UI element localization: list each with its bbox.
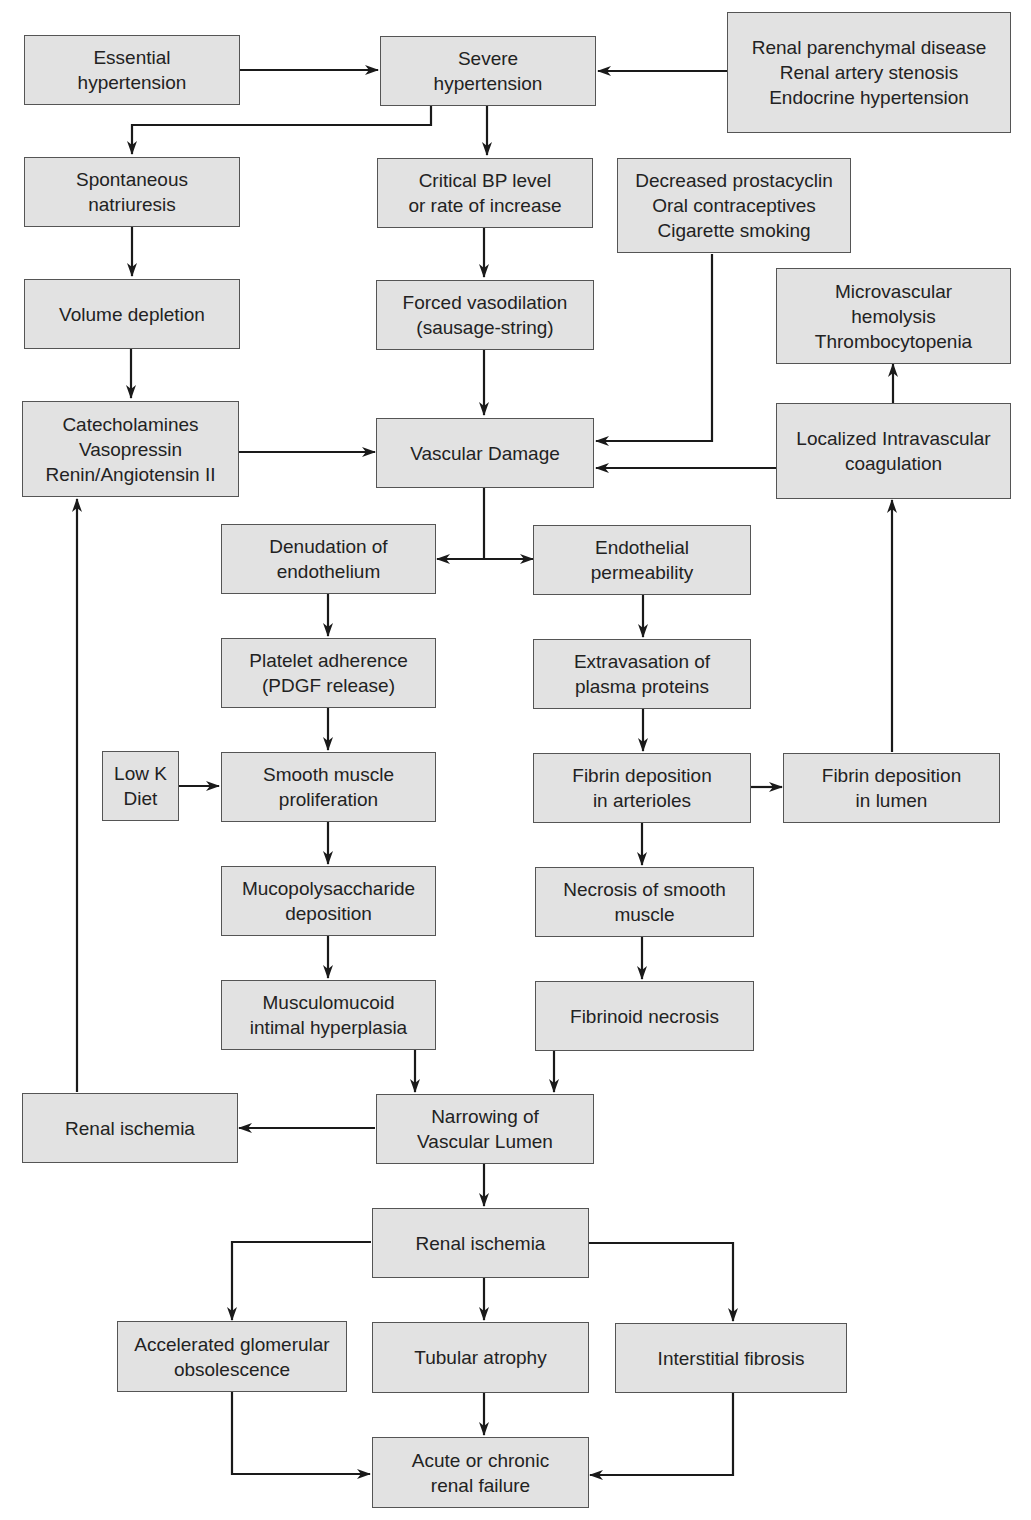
node-text-line: Severe — [458, 46, 518, 71]
node-text-line: Decreased prostacyclin — [635, 168, 832, 193]
node-denudation: Denudation of endothelium — [221, 524, 436, 594]
node-text-line: Necrosis of smooth — [563, 877, 726, 902]
node-text-line: proliferation — [279, 787, 378, 812]
node-text-line: Endothelial — [595, 535, 689, 560]
node-secondary-causes: Renal parenchymal disease Renal artery s… — [727, 12, 1011, 133]
node-text-line: permeability — [591, 560, 693, 585]
arrow-interstitial-to-failure — [590, 1393, 733, 1475]
node-text-line: Critical BP level — [419, 168, 552, 193]
node-vascular-damage: Vascular Damage — [376, 418, 594, 488]
node-text-line: hypertension — [78, 70, 187, 95]
node-text-line: Cigarette smoking — [657, 218, 810, 243]
node-text-line: Oral contraceptives — [652, 193, 816, 218]
node-text-line: Mucopolysaccharide — [242, 876, 415, 901]
node-text-line: Interstitial fibrosis — [658, 1346, 805, 1371]
node-interstitial-fibrosis: Interstitial fibrosis — [615, 1323, 847, 1393]
node-smooth-muscle-proliferation: Smooth muscle proliferation — [221, 752, 436, 822]
node-text-line: Vasopressin — [79, 437, 182, 462]
node-text-line: Endocrine hypertension — [769, 85, 969, 110]
node-text-line: Volume depletion — [59, 302, 205, 327]
node-platelet-adherence: Platelet adherence (PDGF release) — [221, 638, 436, 708]
node-text-line: hypertension — [434, 71, 543, 96]
node-text-line: (PDGF release) — [262, 673, 395, 698]
node-tubular-atrophy: Tubular atrophy — [372, 1322, 589, 1393]
node-text-line: hemolysis — [851, 304, 935, 329]
node-text-line: muscle — [614, 902, 674, 927]
node-renal-ischemia-left: Renal ischemia — [22, 1093, 238, 1163]
node-text-line: Musculomucoid — [263, 990, 395, 1015]
node-musculomucoid: Musculomucoid intimal hyperplasia — [221, 980, 436, 1050]
node-text-line: in lumen — [856, 788, 928, 813]
node-renal-ischemia-center: Renal ischemia — [372, 1208, 589, 1278]
node-text-line: Tubular atrophy — [414, 1345, 546, 1370]
node-text-line: renal failure — [431, 1473, 530, 1498]
node-text-line: in arterioles — [593, 788, 691, 813]
node-text-line: or rate of increase — [408, 193, 561, 218]
node-text-line: natriuresis — [88, 192, 176, 217]
node-text-line: plasma proteins — [575, 674, 709, 699]
node-spontaneous-natriuresis: Spontaneous natriuresis — [24, 157, 240, 227]
arrow-ischemia-to-glomerular — [232, 1242, 371, 1320]
arrow-prostacyclin-to-damage — [596, 254, 712, 441]
node-necrosis-smooth-muscle: Necrosis of smooth muscle — [535, 867, 754, 937]
node-text-line: Renal ischemia — [416, 1231, 546, 1256]
node-text-line: Extravasation of — [574, 649, 710, 674]
node-text-line: Fibrinoid necrosis — [570, 1004, 719, 1029]
node-text-line: deposition — [285, 901, 372, 926]
node-text-line: Renal parenchymal disease — [752, 35, 986, 60]
node-extravasation: Extravasation of plasma proteins — [533, 639, 751, 709]
node-text-line: Fibrin deposition — [822, 763, 961, 788]
node-narrowing-lumen: Narrowing of Vascular Lumen — [376, 1094, 594, 1164]
node-microvascular-hemolysis: Microvascular hemolysis Thrombocytopenia — [776, 268, 1011, 364]
node-severe-hypertension: Severe hypertension — [380, 36, 596, 106]
node-text-line: endothelium — [277, 559, 381, 584]
arrow-ischemia-to-interstitial — [589, 1243, 733, 1321]
node-volume-depletion: Volume depletion — [24, 279, 240, 349]
node-text-line: Thrombocytopenia — [815, 329, 972, 354]
node-mucopolysaccharide: Mucopolysaccharide deposition — [221, 866, 436, 936]
node-text-line: Renal artery stenosis — [780, 60, 958, 85]
arrow-severe-to-natriuresis — [132, 106, 431, 154]
node-text-line: Narrowing of — [431, 1104, 539, 1129]
node-text-line: obsolescence — [174, 1357, 290, 1382]
node-fibrin-arterioles: Fibrin deposition in arterioles — [533, 753, 751, 823]
node-text-line: Low K — [114, 761, 167, 786]
node-low-k-diet: Low K Diet — [102, 751, 179, 821]
node-text-line: Renal ischemia — [65, 1116, 195, 1141]
arrow-glomerular-to-failure — [232, 1392, 370, 1474]
node-text-line: Vascular Damage — [410, 441, 560, 466]
node-essential-hypertension: Essential hypertension — [24, 35, 240, 105]
node-fibrinoid-necrosis: Fibrinoid necrosis — [535, 981, 754, 1051]
node-text-line: Vascular Lumen — [417, 1129, 553, 1154]
node-text-line: intimal hyperplasia — [250, 1015, 407, 1040]
arrow-damage-to-denudation — [437, 488, 484, 559]
node-text-line: Catecholamines — [62, 412, 198, 437]
node-endothelial-permeability: Endothelial permeability — [533, 525, 751, 595]
node-text-line: Diet — [124, 786, 158, 811]
hypertension-pathophysiology-flowchart: Essential hypertension Severe hypertensi… — [0, 0, 1031, 1520]
node-text-line: Platelet adherence — [249, 648, 407, 673]
node-text-line: Fibrin deposition — [572, 763, 711, 788]
node-forced-vasodilation: Forced vasodilation (sausage-string) — [376, 280, 594, 350]
node-prostacyclin-factors: Decreased prostacyclin Oral contraceptiv… — [617, 158, 851, 253]
node-glomerular-obsolescence: Accelerated glomerular obsolescence — [117, 1321, 347, 1392]
node-text-line: Denudation of — [269, 534, 387, 559]
node-text-line: Renin/Angiotensin II — [45, 462, 215, 487]
node-text-line: Spontaneous — [76, 167, 188, 192]
node-text-line: Microvascular — [835, 279, 952, 304]
node-text-line: Accelerated glomerular — [134, 1332, 329, 1357]
node-localized-coagulation: Localized Intravascular coagulation — [776, 403, 1011, 499]
node-text-line: coagulation — [845, 451, 942, 476]
node-fibrin-lumen: Fibrin deposition in lumen — [783, 753, 1000, 823]
node-critical-bp: Critical BP level or rate of increase — [377, 158, 593, 228]
node-vasoactive-hormones: Catecholamines Vasopressin Renin/Angiote… — [22, 401, 239, 497]
node-text-line: Acute or chronic — [412, 1448, 549, 1473]
node-text-line: Essential — [93, 45, 170, 70]
node-text-line: (sausage-string) — [416, 315, 553, 340]
node-text-line: Smooth muscle — [263, 762, 394, 787]
node-renal-failure: Acute or chronic renal failure — [372, 1437, 589, 1508]
node-text-line: Localized Intravascular — [796, 426, 990, 451]
node-text-line: Forced vasodilation — [403, 290, 568, 315]
